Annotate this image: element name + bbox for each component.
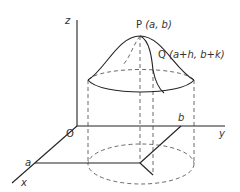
top-ellipse-back xyxy=(88,70,194,81)
q-label: Q (a+h, b+k) xyxy=(158,49,225,60)
surface-back-contour xyxy=(122,36,140,66)
surface-diagram: z y x O a b P (a, b) Q (a+h, b+k) xyxy=(0,0,240,192)
b-label: b xyxy=(178,112,184,123)
surface-q-curve xyxy=(140,36,164,93)
p-label: P (a, b) xyxy=(136,19,172,30)
b-line xyxy=(140,126,181,163)
y-axis-label: y xyxy=(218,128,226,139)
top-ellipse-front xyxy=(88,80,194,92)
a-label: a xyxy=(25,157,31,168)
z-axis-label: z xyxy=(64,15,71,26)
hk-offset-line xyxy=(140,163,153,175)
origin-label: O xyxy=(66,128,74,139)
x-axis-label: x xyxy=(20,177,27,188)
